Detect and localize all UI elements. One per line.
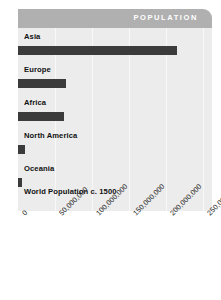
bar-africa: [18, 112, 64, 121]
bar-category-label: North America: [24, 131, 77, 140]
chart-title: POPULATION: [133, 13, 198, 22]
population-bar-chart: POPULATION AsiaEuropeAfricaNorth America…: [0, 0, 221, 300]
bar-category-label: Africa: [24, 98, 46, 107]
bar-north-america: [18, 145, 25, 154]
bar-asia: [18, 46, 177, 55]
bar-category-label: Europe: [24, 65, 51, 74]
bar-oceania: [18, 178, 22, 187]
bar-category-label: Asia: [24, 32, 40, 41]
chart-footnote: World Population c. 1500: [24, 187, 117, 196]
plot-area: AsiaEuropeAfricaNorth AmericaOceania Wor…: [18, 28, 212, 211]
bar-category-label: Oceania: [24, 164, 54, 173]
gridline: [129, 28, 130, 211]
gridline: [166, 28, 167, 211]
gridline: [203, 28, 204, 211]
x-axis-tick-labels: 050,000,000100,000,000150,000,000200,000…: [0, 211, 221, 300]
gridline: [92, 28, 93, 211]
bar-europe: [18, 79, 66, 88]
chart-header-banner: POPULATION: [18, 9, 212, 28]
